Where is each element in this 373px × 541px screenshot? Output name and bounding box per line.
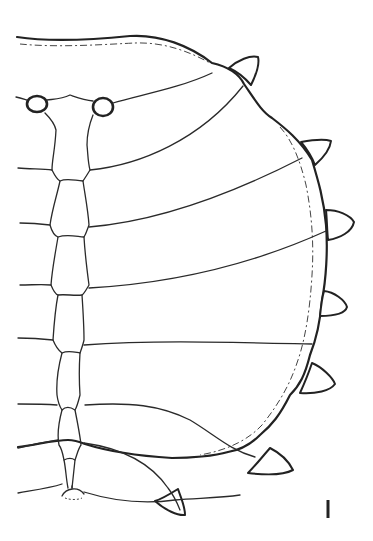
lateral-spine-3 — [326, 210, 354, 240]
left-line-2 — [20, 223, 50, 225]
left-line-5 — [18, 404, 57, 405]
lateral-spine-4 — [320, 291, 347, 316]
median-crossline-4 — [62, 351, 80, 353]
median-crossline-2 — [58, 235, 84, 237]
specimen-figure — [0, 0, 373, 541]
tubercle-right — [93, 98, 113, 116]
median-crossline-3 — [58, 295, 82, 296]
median-crossline-1 — [60, 179, 83, 181]
right-suture-2 — [89, 158, 302, 227]
posterior-cap-dash — [65, 498, 82, 500]
left-line-1 — [18, 168, 52, 170]
left-line-4 — [18, 338, 53, 340]
right-suture-4 — [84, 342, 312, 345]
lateral-spine-1 — [229, 57, 259, 85]
lateral-spine-6 — [248, 448, 293, 475]
posterior-cap — [62, 489, 84, 496]
median-crossline-5 — [62, 407, 75, 410]
right-suture-3 — [89, 231, 326, 288]
tubercle-left — [27, 96, 47, 112]
median-crossline-6 — [64, 459, 75, 461]
body-outline — [17, 36, 327, 458]
left-line-6 — [18, 440, 58, 448]
inner-margin-line — [20, 43, 313, 455]
right-suture-1 — [90, 86, 243, 170]
median-column-right — [72, 115, 93, 488]
lateral-spine-2 — [301, 140, 331, 165]
left-line-7 — [18, 484, 62, 493]
